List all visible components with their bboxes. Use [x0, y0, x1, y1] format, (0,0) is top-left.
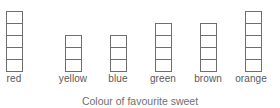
chart-caption: Colour of favourite sweet	[0, 94, 280, 108]
unit-square	[6, 59, 23, 72]
bar-column-brown	[189, 23, 227, 72]
bar-column-orange	[234, 11, 272, 72]
category-axis: red yellow blue green brown orange	[0, 72, 280, 89]
bar-column-green	[144, 23, 182, 72]
unit-square	[245, 59, 262, 72]
axis-tick-label-orange: orange	[223, 72, 279, 86]
unit-square	[65, 59, 82, 72]
bar-column-red	[0, 11, 33, 72]
axis-tick-label-red: red	[0, 72, 42, 86]
unit-square	[200, 59, 217, 72]
pictogram-chart: red yellow blue green brown orange Colou…	[0, 0, 280, 108]
chart-plot-area	[0, 0, 280, 72]
bar-column-yellow	[54, 35, 92, 72]
unit-square	[155, 59, 172, 72]
bar-column-blue	[99, 35, 137, 72]
unit-square	[110, 59, 127, 72]
